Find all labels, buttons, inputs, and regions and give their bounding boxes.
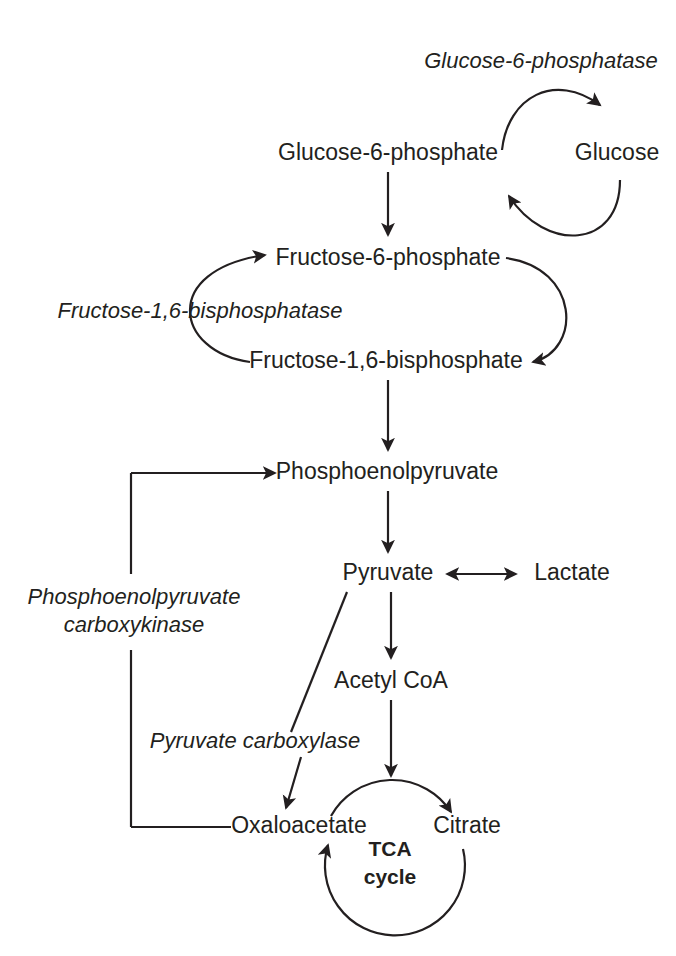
pathway-diagram-canvas: Glucose-6-phosphate Glucose Fructose-6-p… [0,0,676,956]
metabolite-fructose-1-6-bisphosphate: Fructose-1,6-bisphosphate [249,347,523,373]
metabolite-glucose: Glucose [575,139,659,165]
edge-pyruvate-carboxylase-lower [286,757,301,808]
metabolite-acetyl-coa: Acetyl CoA [334,667,448,693]
edge-pyruvate-carboxylase-upper [291,592,347,732]
tca-cycle-label-line-1: TCA [368,837,411,860]
pathway-figure: Glucose-6-phosphate Glucose Fructose-6-p… [0,0,676,956]
metabolite-pyruvate: Pyruvate [343,559,434,585]
metabolite-fructose-6-phosphate: Fructose-6-phosphate [275,244,500,270]
enzyme-phosphoenolpyruvate-carboxykinase-line-2: carboxykinase [64,612,205,637]
metabolite-phosphoenolpyruvate: Phosphoenolpyruvate [276,458,499,484]
metabolite-citrate: Citrate [433,812,501,838]
enzyme-fructose-1-6-bisphosphatase: Fructose-1,6-bisphosphatase [58,298,343,323]
enzyme-glucose-6-phosphatase: Glucose-6-phosphatase [424,48,658,73]
metabolite-glucose-6-phosphate: Glucose-6-phosphate [278,139,498,165]
enzyme-pyruvate-carboxylase: Pyruvate carboxylase [150,728,360,753]
edge-glucose-to-g6p [509,180,620,235]
metabolite-oxaloacetate: Oxaloacetate [231,812,367,838]
enzyme-phosphoenolpyruvate-carboxykinase-line-1: Phosphoenolpyruvate [28,584,241,609]
edge-oaa-to-citrate [331,780,451,816]
metabolite-lactate: Lactate [534,559,609,585]
tca-cycle-label-line-2: cycle [364,865,417,888]
